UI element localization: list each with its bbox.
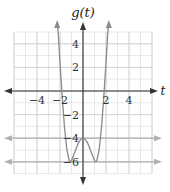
axes bbox=[4, 22, 158, 185]
x-axis-arrow-left-icon bbox=[4, 88, 12, 94]
x-tick-label: 4 bbox=[126, 94, 133, 107]
x-tick-label: 2 bbox=[103, 94, 110, 107]
x-tick-label: −2 bbox=[52, 94, 68, 107]
arrow-right-icon bbox=[154, 135, 162, 141]
y-axis-arrow-up-icon bbox=[80, 22, 86, 30]
tick-labels: −4−22442−2−4−6 bbox=[29, 38, 133, 169]
curve-arrow-left-icon bbox=[54, 20, 60, 28]
y-tick-label: −6 bbox=[63, 156, 79, 169]
arrow-left-icon bbox=[4, 135, 12, 141]
function-graph: −4−22442−2−4−6 g(t) t bbox=[0, 0, 170, 192]
x-axis-label: t bbox=[161, 84, 166, 98]
y-axis-arrow-down-icon bbox=[80, 177, 86, 185]
curve-arrow-right-icon bbox=[106, 20, 112, 28]
x-tick-label: −4 bbox=[29, 94, 45, 107]
y-tick-label: −4 bbox=[63, 132, 79, 145]
x-axis-arrow-right-icon bbox=[150, 88, 158, 94]
y-tick-label: −2 bbox=[63, 109, 79, 122]
arrow-right-icon bbox=[154, 159, 162, 165]
arrow-left-icon bbox=[4, 159, 12, 165]
y-tick-label: 4 bbox=[72, 38, 79, 51]
y-axis-title: g(t) bbox=[71, 5, 95, 20]
y-tick-label: 2 bbox=[72, 61, 79, 74]
